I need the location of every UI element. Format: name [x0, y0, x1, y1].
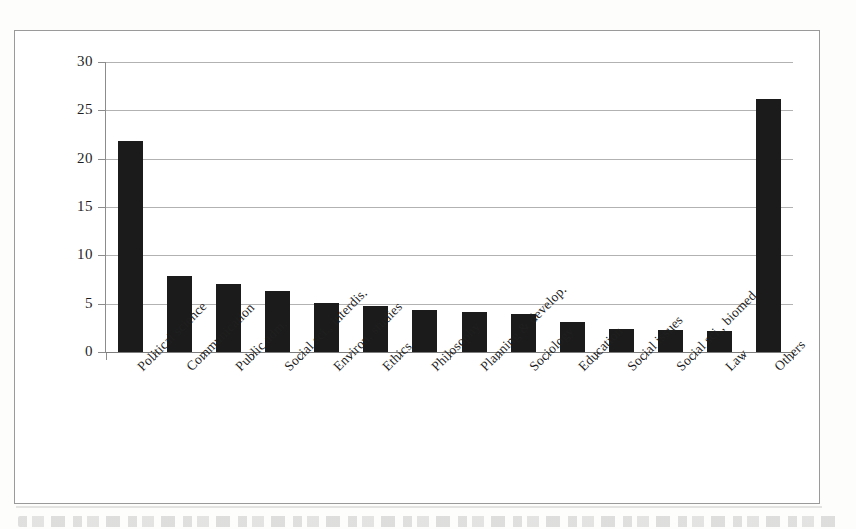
y-tick-label-0: 0	[33, 344, 93, 359]
x-axis-label: Philosophy	[429, 320, 483, 374]
x-axis-label: Education	[576, 324, 626, 374]
scan-edge-artifact	[16, 506, 822, 508]
x-axis-label: Ethics	[380, 339, 415, 374]
y-tick-label-30: 30	[33, 54, 93, 69]
figure-container: Political scienceCommunicationPublic adm…	[0, 0, 856, 529]
x-axis-label: Sociology	[527, 324, 577, 374]
x-axis-label: Planning & develop.	[478, 283, 569, 374]
x-axis-label: Law	[723, 347, 750, 374]
y-tick-label-20: 20	[33, 151, 93, 166]
y-tick-label-10: 10	[33, 247, 93, 262]
x-axis-label: Social sci., interdis.	[282, 286, 370, 374]
scan-caption-artifact	[18, 516, 838, 527]
y-tick-label-5: 5	[33, 296, 93, 311]
x-axis-labels: Political scienceCommunicationPublic adm…	[15, 31, 856, 529]
chart-frame: Political scienceCommunicationPublic adm…	[14, 30, 820, 504]
x-axis-label: Social sci., biomed.	[674, 286, 762, 374]
y-tick-label-15: 15	[33, 199, 93, 214]
y-axis-tick-labels: 051015202530	[27, 0, 93, 529]
y-tick-label-25: 25	[33, 102, 93, 117]
x-axis-label: Others	[772, 338, 808, 374]
